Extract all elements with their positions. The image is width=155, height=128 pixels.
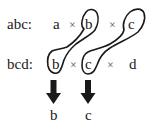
times-operator: ×	[69, 19, 76, 31]
term-b: b	[52, 57, 60, 72]
times-operator: ×	[107, 59, 114, 71]
term-d: d	[129, 57, 137, 72]
term-c: c	[85, 57, 92, 72]
result-b: b	[50, 108, 58, 123]
term-b: b	[85, 17, 93, 32]
row-label-bcd: bcd:	[7, 57, 33, 72]
times-operator: ×	[109, 19, 116, 31]
factor-diagram: abc: a × b × c bcd: b × c × d b c	[0, 0, 155, 128]
down-arrow-icon	[81, 80, 96, 104]
term-a: a	[53, 17, 60, 32]
times-operator: ×	[70, 59, 77, 71]
row-label-abc: abc:	[7, 17, 32, 32]
result-c: c	[85, 108, 92, 123]
term-c: c	[128, 17, 135, 32]
down-arrow-icon	[46, 80, 61, 104]
